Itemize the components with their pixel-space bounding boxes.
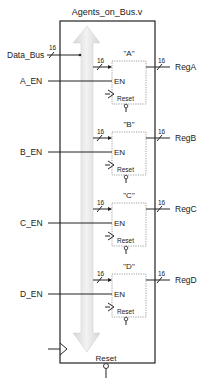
data-bus-width: 16 (49, 44, 57, 51)
out-width: 16 (158, 128, 166, 135)
en-pin: EN (114, 219, 125, 228)
reset-pin: Reset (117, 308, 134, 315)
in-width: 16 (97, 270, 105, 277)
out-width: 16 (158, 270, 166, 277)
bus-arrow-icon (73, 26, 100, 352)
output-label: RegD (175, 275, 197, 285)
register-name: "D" (123, 262, 135, 271)
en-pin: EN (114, 290, 125, 299)
out-width: 16 (158, 199, 166, 206)
reset-bubble-icon (124, 104, 128, 108)
reset-bubble-icon (104, 364, 109, 369)
in-width: 16 (97, 199, 105, 206)
clock-icon (60, 343, 67, 355)
reset-pin: Reset (117, 237, 134, 244)
enable-label: A_EN (20, 76, 42, 86)
output-label: RegA (175, 62, 197, 72)
data-bus-label: Data_Bus (7, 50, 44, 60)
reset-bubble-icon (124, 246, 128, 250)
diagram-canvas: Agents_on_Bus.v Data_Bus 16 "A" 16 EN Re… (0, 0, 206, 387)
in-width: 16 (97, 57, 105, 64)
register-d: "D" 16 EN Reset 16 RegD D_EN (20, 262, 197, 325)
module-clock-input (48, 343, 67, 355)
en-pin: EN (114, 148, 125, 157)
enable-label: C_EN (20, 218, 43, 228)
register-a: "A" 16 EN Reset 16 RegA A_EN (20, 49, 197, 112)
data-bus-input: Data_Bus 16 (7, 44, 81, 60)
module-box (60, 21, 155, 363)
en-pin: EN (114, 77, 125, 86)
reset-bubble-icon (124, 175, 128, 179)
module-reset-label: Reset (96, 354, 118, 363)
enable-label: B_EN (20, 147, 42, 157)
reset-pin: Reset (117, 166, 134, 173)
output-label: RegB (175, 133, 197, 143)
register-name: "C" (123, 191, 135, 200)
output-label: RegC (175, 204, 197, 214)
out-width: 16 (158, 57, 166, 64)
reset-bubble-icon (124, 317, 128, 321)
register-b: "B" 16 EN Reset 16 RegB B_EN (20, 120, 197, 183)
enable-label: D_EN (20, 289, 43, 299)
module-title: Agents_on_Bus.v (72, 7, 143, 17)
reset-pin: Reset (117, 95, 134, 102)
register-name: "A" (123, 49, 134, 58)
module-reset: Reset (96, 354, 118, 378)
in-width: 16 (97, 128, 105, 135)
register-name: "B" (123, 120, 134, 129)
register-c: "C" 16 EN Reset 16 RegC C_EN (20, 191, 197, 254)
